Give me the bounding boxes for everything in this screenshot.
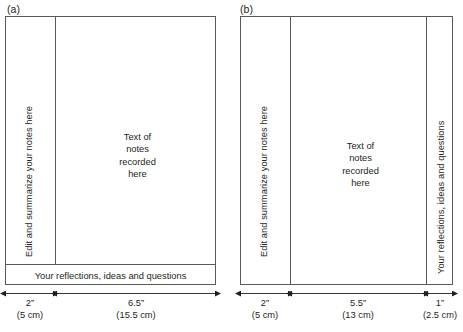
panel-a-dimension-2: 6.5” (15.5 cm) — [96, 298, 176, 321]
panel-a-dimension-1: 2” (5 cm) — [6, 298, 54, 321]
cornell-note-layout-figure: (a) Edit and summarize your notes here T… — [0, 0, 463, 332]
panel-b-dimension-2: 5.5” (13 cm) — [318, 298, 398, 321]
panel-a: (a) Edit and summarize your notes here T… — [0, 0, 231, 332]
panel-b-dimension-1: 2” (5 cm) — [241, 298, 289, 321]
panel-b-dimension-3: 1” (2.5 cm) — [409, 298, 463, 321]
panel-b-dimension-lines — [231, 0, 463, 332]
panel-b: (b) Edit and summarize your notes here T… — [231, 0, 463, 332]
